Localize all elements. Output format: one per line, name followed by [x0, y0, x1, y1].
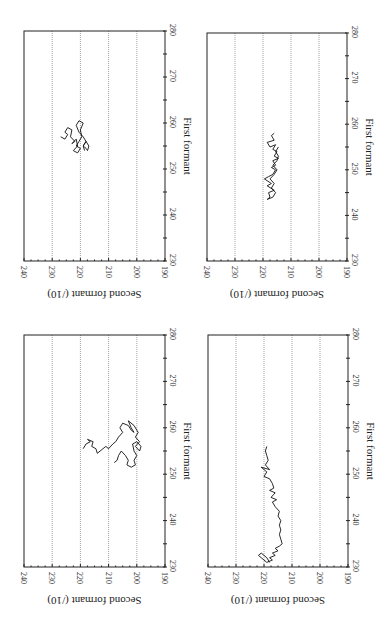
- x-tick-label: 230: [350, 254, 359, 266]
- formant-trajectory: [258, 446, 282, 562]
- x-tick-label: 250: [350, 163, 359, 175]
- x-tick-label: 250: [168, 467, 177, 479]
- x-tick-label: 250: [168, 162, 177, 174]
- plot-frame: [24, 335, 165, 567]
- y-tick-label: 210: [104, 572, 113, 584]
- x-tick-label: 240: [351, 514, 360, 526]
- x-tick-label: 280: [350, 26, 359, 38]
- x-tick-label: 270: [351, 374, 360, 386]
- y-tick-label: 190: [160, 266, 169, 278]
- y-tick-label: 240: [19, 572, 28, 584]
- x-tick-label: 280: [168, 24, 177, 36]
- panel-top-left: 240230220210200190230240250260270280Seco…: [19, 24, 194, 301]
- y-tick-label: 190: [160, 572, 169, 584]
- x-tick-label: 260: [168, 116, 177, 128]
- y-axis-label: Second formant (/10): [230, 288, 324, 301]
- y-tick-label: 200: [132, 572, 141, 584]
- y-axis-label: Second formant (/10): [47, 288, 141, 301]
- y-axis-label: Second formant (/10): [47, 594, 141, 607]
- x-tick-label: 260: [168, 421, 177, 433]
- plot-frame: [24, 31, 165, 261]
- panel-bottom-left: 240230220210200190230240250260270280Seco…: [19, 328, 194, 607]
- y-tick-label: 200: [314, 266, 323, 278]
- y-tick-label: 190: [342, 266, 351, 278]
- x-axis-label: First formant: [364, 118, 376, 176]
- panel-bottom-right: 240230220210200190230240250260270280Seco…: [203, 328, 377, 607]
- plot-frame: [208, 335, 348, 567]
- y-tick-label: 220: [259, 572, 268, 584]
- x-tick-label: 240: [350, 208, 359, 220]
- x-tick-label: 240: [168, 208, 177, 220]
- formant-trajectory: [264, 133, 278, 199]
- x-tick-label: 280: [168, 328, 177, 340]
- formant-trajectory: [83, 421, 141, 467]
- y-tick-label: 190: [343, 572, 352, 584]
- y-tick-label: 210: [104, 266, 113, 278]
- x-axis-label: First formant: [182, 422, 194, 480]
- x-tick-label: 270: [350, 72, 359, 84]
- x-tick-label: 270: [168, 70, 177, 82]
- x-tick-label: 270: [168, 374, 177, 386]
- figure: 240230220210200190230240250260270280Seco…: [0, 0, 392, 634]
- y-tick-label: 240: [203, 572, 212, 584]
- x-tick-label: 230: [168, 560, 177, 572]
- y-tick-label: 230: [230, 266, 239, 278]
- x-axis-label: First formant: [365, 422, 377, 480]
- y-tick-label: 240: [19, 266, 28, 278]
- formant-trajectory: [61, 121, 89, 153]
- y-tick-label: 240: [202, 266, 211, 278]
- x-tick-label: 240: [168, 514, 177, 526]
- panel-top-right: 240230220210200190230240250260270280Seco…: [202, 26, 376, 301]
- x-tick-label: 260: [351, 421, 360, 433]
- x-tick-label: 230: [168, 254, 177, 266]
- y-axis-label: Second formant (/10): [231, 594, 325, 607]
- y-tick-label: 220: [75, 266, 84, 278]
- x-tick-label: 260: [350, 117, 359, 129]
- x-tick-label: 280: [351, 328, 360, 340]
- x-axis-label: First formant: [182, 117, 194, 175]
- plot-frame: [207, 33, 347, 261]
- y-tick-label: 220: [258, 266, 267, 278]
- y-tick-label: 200: [132, 266, 141, 278]
- y-tick-label: 210: [287, 572, 296, 584]
- x-tick-label: 230: [351, 560, 360, 572]
- y-tick-label: 230: [47, 266, 56, 278]
- y-tick-label: 230: [47, 572, 56, 584]
- y-tick-label: 220: [75, 572, 84, 584]
- y-tick-label: 200: [315, 572, 324, 584]
- y-tick-label: 230: [231, 572, 240, 584]
- x-tick-label: 250: [351, 467, 360, 479]
- y-tick-label: 210: [286, 266, 295, 278]
